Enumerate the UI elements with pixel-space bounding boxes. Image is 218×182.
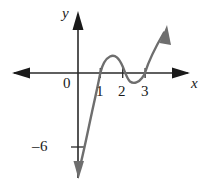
x-axis-left-arrowhead <box>12 68 30 79</box>
curve-series-cubic <box>74 25 172 179</box>
graph-figure: y x 0 1 2 3 –6 <box>0 0 218 182</box>
y-axis-label: y <box>62 6 69 21</box>
y-tick-label-minus6: –6 <box>32 139 48 154</box>
curve-path <box>80 33 165 169</box>
x-axis-label: x <box>191 76 198 91</box>
x-tick-label-1: 1 <box>96 84 104 99</box>
curve-start-arrowhead-down <box>74 161 85 179</box>
x-tick-label-3: 3 <box>141 84 149 99</box>
origin-label: 0 <box>63 76 71 91</box>
y-axis-up-arrowhead <box>73 11 84 30</box>
x-axis-right-arrowhead <box>172 68 190 79</box>
coordinate-plane-svg <box>0 0 218 182</box>
y-axis <box>73 11 84 178</box>
x-tick-label-2: 2 <box>118 84 126 99</box>
